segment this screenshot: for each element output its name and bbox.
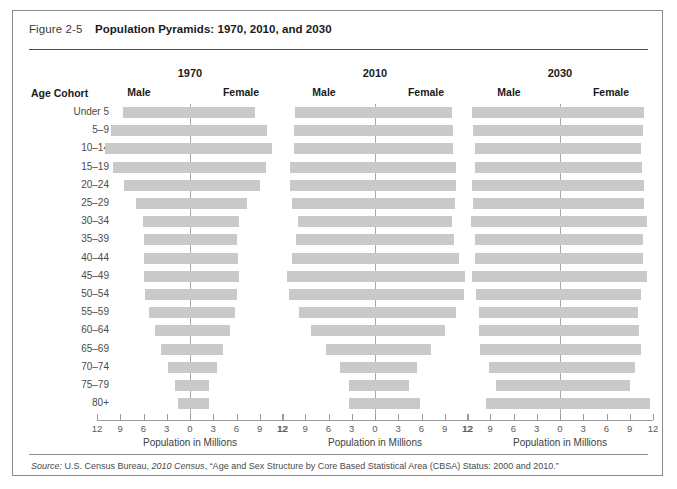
axis-tick-label: 6 [503,423,525,434]
axis-tick [583,414,584,420]
bar-female [560,180,644,191]
bar-male [326,344,375,355]
bar-male [311,325,375,336]
bar-male [349,380,375,391]
bar-female [190,162,266,173]
bar-female [560,162,642,173]
pyramid-panel [467,104,653,415]
bar-male [299,307,375,318]
bar-male [479,325,560,336]
female-column-label: Female [381,86,471,98]
bar-female [375,198,455,209]
bar-male [144,253,190,264]
bar-female [560,344,641,355]
axis-tick-label: 6 [133,423,155,434]
panel-year-label: 1970 [97,67,283,79]
axis-tick [97,414,98,420]
axis-tick-label: 12 [642,423,664,434]
bar-female [560,198,644,209]
bar-female [190,216,239,227]
axis-tick-label: 12 [271,423,293,434]
bar-female [190,180,260,191]
axis-tick-label: 6 [226,423,248,434]
bar-male [168,362,190,373]
female-column-label: Female [196,86,286,98]
bar-female [375,180,456,191]
bar-male [480,344,560,355]
bar-female [190,234,237,245]
bar-male [486,398,560,409]
bar-female [560,362,635,373]
bar-male [105,143,190,154]
bar-male [294,125,375,136]
pyramid-panel [97,104,283,415]
bar-female [560,325,639,336]
axis-tick [144,414,145,420]
bar-male [149,307,190,318]
panel-year-label: 2030 [467,67,653,79]
bar-male [155,325,190,336]
bar-male [296,234,375,245]
bar-male [340,362,375,373]
axis-tick [467,414,468,420]
bar-female [190,198,247,209]
panel-plot-area [97,104,283,415]
bar-female [190,398,209,409]
axis-tick [120,414,121,420]
bar-female [375,398,420,409]
figure-frame: Figure 2-5 Population Pyramids: 1970, 20… [12,10,663,476]
source-divider [29,454,648,455]
axis-title: Population in Millions [282,437,468,448]
axis-tick-label: 0 [549,423,571,434]
bar-female [375,253,459,264]
page-title: Population Pyramids: 1970, 2010, and 203… [95,23,332,35]
bar-male [124,180,190,191]
axis-tick [422,414,423,420]
bar-female [375,289,464,300]
bar-female [375,271,465,282]
bar-male [287,271,375,282]
bar-female [375,380,409,391]
bar-male [476,289,560,300]
bar-female [560,234,643,245]
bar-male [472,180,560,191]
bar-female [560,107,644,118]
bar-female [375,234,454,245]
bar-male [349,398,375,409]
female-column-label: Female [566,86,656,98]
bar-female [375,325,445,336]
source-text-2: , “Age and Sex Structure by Core Based S… [205,461,559,471]
axis-tick-label: 9 [249,423,271,434]
bar-female [190,271,239,282]
bar-male [144,234,190,245]
axis-tick-label: 6 [318,423,340,434]
male-column-label: Male [94,86,184,98]
axis-tick-label: 3 [572,423,594,434]
bar-female [190,143,272,154]
bar-male [290,162,375,173]
axis-tick [537,414,538,420]
bar-female [560,307,638,318]
bar-male [496,380,560,391]
axis-tick [653,414,654,420]
axis-title: Population in Millions [467,437,653,448]
panel-plot-area [467,104,653,415]
bar-male [175,380,190,391]
source-note: Source: U.S. Census Bureau, 2010 Census,… [31,461,559,471]
axis-title: Population in Millions [97,437,283,448]
bar-female [190,125,267,136]
bar-female [375,162,456,173]
axis-tick-label: 3 [526,423,548,434]
bar-female [560,398,650,409]
bar-female [190,325,230,336]
bar-female [560,143,641,154]
bar-male [292,253,375,264]
bar-male [111,125,190,136]
bar-male [471,216,560,227]
axis-tick-label: 3 [341,423,363,434]
bar-female [560,253,643,264]
bar-male [472,107,560,118]
axis-tick-label: 0 [364,423,386,434]
axis-tick [190,414,191,420]
pyramid-panel [282,104,468,415]
